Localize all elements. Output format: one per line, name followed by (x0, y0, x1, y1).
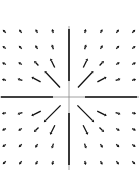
arrow-shaft (4, 144, 6, 145)
arrow-shaft (4, 31, 5, 32)
arrow-shaft (46, 73, 60, 88)
arrow-shaft (20, 113, 23, 114)
arrow-shaft (4, 80, 6, 81)
arrow-shaft (132, 144, 134, 145)
arrow-shaft (36, 63, 39, 66)
arrow-head-icon (84, 163, 87, 166)
arrow-head-icon (51, 163, 54, 166)
arrow-shaft (51, 125, 55, 133)
arrow-shaft (116, 63, 118, 64)
arrow-shaft (132, 31, 133, 32)
arrow-shaft (132, 129, 134, 130)
arrow-shaft (33, 78, 40, 82)
arrow-shaft (45, 105, 60, 120)
arrow-shaft (99, 127, 102, 130)
arrow-shaft (132, 161, 133, 162)
arrow-shaft (97, 78, 104, 82)
arrow-head-icon (2, 112, 5, 115)
arrow-shaft (100, 63, 103, 66)
arrow-shaft (85, 144, 86, 147)
arrow-shaft (37, 31, 38, 33)
arrow-shaft (20, 161, 21, 163)
arrow-shaft (83, 60, 86, 67)
arrow-shaft (116, 144, 117, 145)
arrow-shaft (53, 144, 54, 147)
arrow-shaft (101, 31, 102, 33)
arrow-shaft (20, 63, 22, 64)
arrow-shaft (116, 113, 119, 114)
arrow-head-icon (84, 29, 87, 32)
arrow-shaft (35, 127, 38, 130)
arrow-shaft (85, 47, 86, 50)
arrow-shaft (4, 64, 6, 65)
arrow-shaft (33, 111, 41, 115)
arrow-shaft (116, 128, 118, 129)
arrow-shaft (20, 128, 22, 129)
arrow-shaft (20, 31, 21, 33)
arrow-shaft (20, 144, 21, 145)
arrow-head-icon (134, 112, 137, 115)
vector-field-diagram (0, 0, 139, 171)
arrow-shaft (53, 47, 54, 50)
arrow-shaft (83, 125, 87, 133)
arrow-shaft (77, 105, 92, 120)
arrow-shaft (51, 60, 54, 67)
arrow-shaft (100, 144, 101, 146)
arrow-shaft (116, 80, 119, 81)
arrow-shaft (132, 47, 134, 48)
arrow-shaft (20, 80, 23, 81)
arrow-shaft (116, 161, 117, 163)
arrow-shaft (116, 31, 117, 33)
arrow-shaft (132, 80, 134, 81)
arrow-shaft (4, 47, 6, 48)
arrow-shaft (36, 144, 37, 146)
arrow-shaft (78, 73, 92, 88)
arrow-shaft (4, 129, 6, 130)
arrow-head-icon (51, 29, 54, 32)
arrow-shaft (116, 47, 117, 48)
arrow-shaft (36, 47, 37, 49)
arrow-shaft (132, 64, 134, 65)
arrow-shaft (101, 161, 102, 163)
arrow-shaft (97, 111, 105, 115)
arrow-shaft (37, 161, 38, 163)
arrow-shaft (100, 47, 101, 49)
arrow-shaft (20, 47, 21, 48)
arrow-shaft (4, 161, 5, 162)
